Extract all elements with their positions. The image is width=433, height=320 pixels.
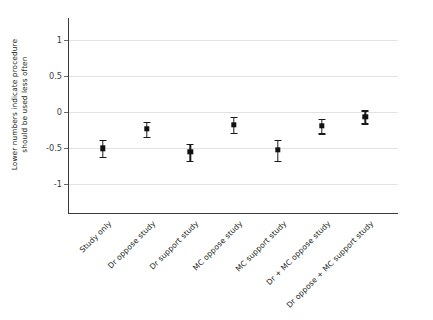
- y-tick-label: 1: [57, 35, 62, 45]
- plot-area: 10.50-0.5-1 Study onlyDr oppose studyDr …: [68, 18, 398, 214]
- gridline: [69, 184, 398, 185]
- data-point-marker[interactable]: [100, 146, 105, 151]
- error-bar-cap-upper: [143, 122, 150, 123]
- data-point-marker[interactable]: [275, 147, 280, 152]
- y-axis-title-line-2: should be used less often: [20, 39, 30, 170]
- data-point-marker[interactable]: [363, 114, 368, 119]
- y-tick-label: -0.5: [46, 143, 62, 153]
- y-tick: [64, 112, 68, 113]
- y-tick: [64, 76, 68, 77]
- error-bar-cap-upper: [362, 110, 369, 111]
- data-point-marker[interactable]: [188, 149, 193, 154]
- error-bar-cap-upper: [187, 144, 194, 145]
- gridline: [69, 76, 398, 77]
- gridline: [69, 40, 398, 41]
- x-axis-line: [68, 213, 398, 214]
- error-bar-cap-upper: [99, 140, 106, 141]
- chart-figure: Lower numbers indicate procedure should …: [0, 0, 433, 320]
- error-bar-cap-upper: [318, 119, 325, 120]
- data-point-marker[interactable]: [144, 126, 149, 131]
- error-bar-cap-lower: [274, 161, 281, 162]
- gridline: [69, 112, 398, 113]
- y-tick-label: -1: [54, 179, 62, 189]
- error-bar-cap-upper: [231, 117, 238, 118]
- y-tick: [64, 40, 68, 41]
- x-tick-label: Dr oppose + MC support study: [285, 219, 376, 310]
- y-axis-title: Lower numbers indicate procedure should …: [0, 0, 40, 210]
- error-bar-cap-lower: [99, 157, 106, 158]
- y-tick-label: 0: [57, 107, 62, 117]
- error-bar-cap-lower: [143, 137, 150, 138]
- x-tick-label: Study only: [78, 219, 113, 254]
- gridline: [69, 148, 398, 149]
- y-tick: [64, 148, 68, 149]
- error-bar-cap-lower: [318, 133, 325, 134]
- y-tick-label: 0.5: [49, 71, 62, 81]
- error-bar-cap-lower: [362, 123, 369, 124]
- error-bar-cap-lower: [187, 161, 194, 162]
- data-point-marker[interactable]: [231, 122, 236, 127]
- error-bar-cap-upper: [274, 140, 281, 141]
- error-bar-cap-lower: [231, 133, 238, 134]
- y-axis-title-line-1: Lower numbers indicate procedure: [10, 39, 20, 170]
- data-point-marker[interactable]: [319, 123, 324, 128]
- y-tick: [64, 184, 68, 185]
